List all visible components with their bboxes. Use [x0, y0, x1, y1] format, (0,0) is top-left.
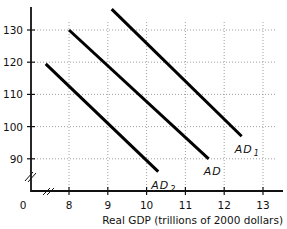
curves	[46, 9, 242, 172]
series-label-ad: AD	[203, 165, 222, 178]
y-tick-label: 120	[3, 56, 23, 68]
curve-ad1	[112, 9, 242, 136]
x-tick-label: 10	[140, 199, 153, 211]
curve-ad2	[46, 64, 159, 172]
x-tick-label: 9	[104, 199, 111, 211]
series-label-ad2: AD2	[150, 179, 176, 194]
y-tick-label: 130	[3, 24, 23, 36]
y-tick-label: 110	[3, 88, 23, 100]
y-tick-label: 100	[3, 121, 23, 133]
x-tick-label: 12	[218, 199, 231, 211]
x-tick-label: 11	[179, 199, 192, 211]
aggregate-demand-chart: 0 Real GDP (trillions of 2000 dollars) 8…	[0, 0, 287, 229]
y-axis-break	[28, 173, 36, 182]
series-label-ad1: AD1	[234, 143, 260, 158]
origin-label: 0	[20, 199, 27, 211]
x-tick-label: 8	[66, 199, 73, 211]
y-tick-label: 90	[10, 153, 23, 165]
labels: 0 Real GDP (trillions of 2000 dollars) 8…	[3, 24, 283, 226]
x-axis-title: Real GDP (trillions of 2000 dollars)	[102, 214, 283, 226]
x-tick-label: 13	[256, 199, 269, 211]
